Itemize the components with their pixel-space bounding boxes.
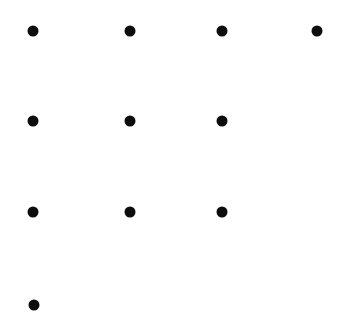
data-point-dot <box>312 26 323 37</box>
dot-pattern-canvas <box>0 0 339 313</box>
data-point-dot <box>125 116 136 127</box>
data-point-dot <box>29 300 40 311</box>
data-point-dot <box>217 26 228 37</box>
data-point-dot <box>28 26 39 37</box>
data-point-dot <box>28 116 39 127</box>
data-point-dot <box>217 116 228 127</box>
data-point-dot <box>125 26 136 37</box>
data-point-dot <box>217 207 228 218</box>
data-point-dot <box>28 207 39 218</box>
data-point-dot <box>125 207 136 218</box>
